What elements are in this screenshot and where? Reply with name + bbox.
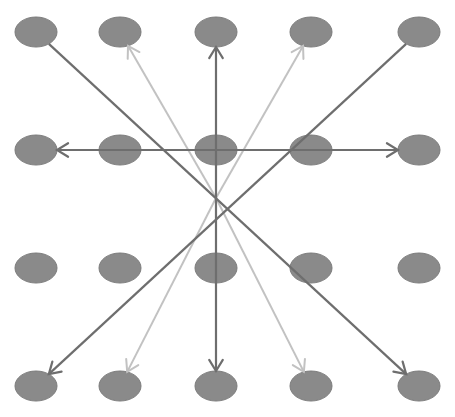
node-r3c2 bbox=[99, 253, 141, 283]
node-r4c3 bbox=[195, 371, 237, 401]
node-r1c4 bbox=[290, 17, 332, 47]
node-r4c5 bbox=[398, 371, 440, 401]
arrow-grid-diagram bbox=[0, 0, 455, 417]
node-r4c2 bbox=[99, 371, 141, 401]
diagram-canvas bbox=[0, 0, 455, 417]
node-r2c1 bbox=[15, 135, 57, 165]
edge-line bbox=[216, 46, 303, 198]
node-r3c5 bbox=[398, 253, 440, 283]
node-r1c5 bbox=[398, 17, 440, 47]
edge-light-to-r1c4 bbox=[216, 46, 303, 198]
edge-light-to-r4c2 bbox=[126, 198, 216, 372]
node-r2c5 bbox=[398, 135, 440, 165]
node-r3c4 bbox=[290, 253, 332, 283]
node-r4c1 bbox=[15, 371, 57, 401]
node-r1c2 bbox=[99, 17, 141, 47]
node-r4c4 bbox=[290, 371, 332, 401]
edge-line bbox=[128, 46, 216, 198]
node-r1c1 bbox=[15, 17, 57, 47]
node-r1c3 bbox=[195, 17, 237, 47]
edge-light-to-r1c2 bbox=[128, 46, 216, 198]
edge-line bbox=[127, 198, 216, 372]
edge-line bbox=[216, 198, 304, 372]
edges-layer bbox=[49, 44, 406, 374]
node-r3c1 bbox=[15, 253, 57, 283]
edge-light-to-r4c4 bbox=[216, 198, 305, 372]
